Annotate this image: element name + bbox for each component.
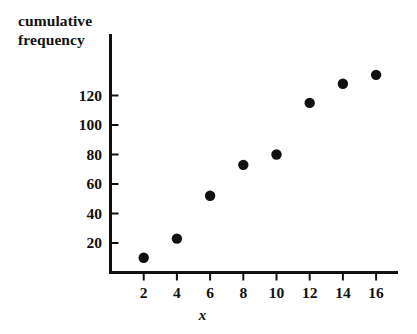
x-axis-tick-label: 12 [302, 285, 318, 301]
data-point [139, 253, 149, 263]
y-axis-tick-label: 40 [40, 206, 102, 222]
axis-lines [109, 34, 398, 274]
y-axis-tick-label: 120 [40, 88, 102, 104]
data-point [305, 98, 315, 108]
data-point [238, 160, 248, 170]
y-axis-tick-label: 80 [40, 147, 102, 163]
data-point-markers [139, 70, 382, 263]
y-axis-tick-label: 100 [40, 117, 102, 133]
x-axis-tick-label: 14 [335, 285, 351, 301]
x-axis-tick-label: 2 [140, 285, 148, 301]
x-axis-tick-label: 4 [173, 285, 181, 301]
data-point [172, 233, 182, 243]
x-axis-tick-label: 16 [368, 285, 384, 301]
y-axis-tick-label: 20 [40, 235, 102, 251]
data-point [371, 70, 381, 80]
x-axis-title: x [0, 306, 417, 325]
x-axis-tick-label: 10 [269, 285, 285, 301]
cumulative-frequency-chart: cumulative frequency 20406080100120 2468… [0, 0, 417, 334]
x-axis-tick-label: 8 [239, 285, 247, 301]
x-axis-title-text: x [199, 306, 207, 325]
data-point [205, 191, 215, 201]
data-point [338, 79, 348, 89]
y-axis-tick-label: 60 [40, 176, 102, 192]
data-point [271, 149, 281, 159]
x-axis-tick-label: 6 [206, 285, 214, 301]
